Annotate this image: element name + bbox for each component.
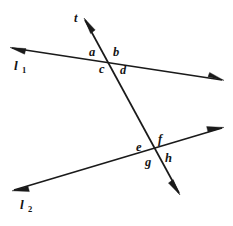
transversal-t-arrowhead-bottom: [168, 180, 180, 195]
line-l2-arrowhead-right: [207, 127, 224, 132]
angle-label-h: h: [165, 151, 172, 165]
line-l1-arrowhead-left: [10, 47, 26, 54]
angle-label-c: c: [99, 62, 105, 76]
angle-label-a: a: [89, 45, 95, 59]
angle-label-e: e: [136, 140, 142, 154]
transversal-t-segment: [85, 20, 179, 193]
line-l2-arrowhead-left: [12, 186, 29, 191]
line-l1-label: l: [14, 58, 18, 73]
angle-label-d: d: [120, 63, 127, 77]
angle-labels-group: a b c d e f g h: [89, 45, 172, 169]
transversal-geometry-figure: l 1 l 2 t a b c d e f g h: [0, 0, 233, 226]
line-l2-segment: [14, 128, 222, 190]
angle-label-g: g: [144, 155, 151, 169]
transversal-t-arrowhead-top: [84, 18, 95, 34]
line-l2-group: l 2: [12, 127, 224, 214]
transversal-t-label: t: [74, 11, 78, 25]
line-l2-label-subscript: 2: [28, 204, 32, 214]
line-l2-label: l: [20, 197, 24, 212]
angle-label-b: b: [113, 45, 119, 59]
line-l1-label-subscript: 1: [22, 65, 26, 75]
angle-label-f: f: [158, 132, 164, 146]
geometry-diagram-canvas: l 1 l 2 t a b c d e f g h: [0, 0, 233, 226]
